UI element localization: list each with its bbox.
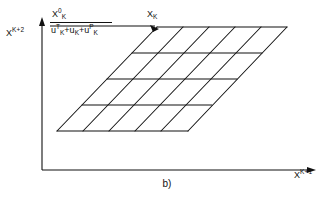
figure-panel: XK+2 XK+1 X0K uTK+uK+uPK XK b) (0, 0, 334, 200)
formula-annotation: X0K uTK+uK+uPK (50, 8, 112, 36)
numerator-subscript: K (62, 13, 66, 20)
denominator-term-3-subscript: K (94, 28, 98, 35)
x-axis-exponent: K+1 (300, 168, 312, 175)
y-axis-arrowhead (39, 17, 45, 26)
mesh-grid (57, 27, 287, 131)
figure-caption: b) (0, 178, 334, 189)
formula-denominator: uTK+uK+uPK (50, 24, 99, 36)
vector-label: XK (147, 9, 157, 20)
y-axis-exponent: K+2 (12, 26, 24, 33)
y-axis-label: XK+2 (6, 26, 24, 38)
axes-group (42, 22, 310, 170)
vector-label-subscript: K (153, 13, 157, 20)
formula-numerator: X0K (50, 8, 68, 21)
